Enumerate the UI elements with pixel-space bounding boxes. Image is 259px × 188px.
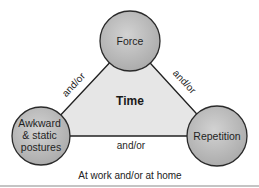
repetition-label: Repetition [193, 130, 240, 142]
awkward-label: Awkward & static postures [18, 117, 63, 153]
awkward-label-line-1: Awkward [18, 117, 61, 129]
node-repetition: Repetition [187, 106, 247, 166]
node-force: Force [100, 11, 160, 71]
force-label: Force [117, 35, 144, 47]
node-awkward-static-postures: Awkward & static postures [12, 107, 70, 165]
bottom-rule [0, 185, 259, 187]
awkward-label-line-3: postures [21, 141, 61, 153]
awkward-label-line-2: & static [22, 129, 56, 141]
caption: At work and/or at home [78, 170, 182, 181]
edge-label-awkward-repetition: and/or [117, 140, 146, 151]
center-label-time: Time [116, 94, 144, 108]
risk-factors-diagram: Time and/or and/or and/or Force Awkward … [0, 0, 259, 188]
